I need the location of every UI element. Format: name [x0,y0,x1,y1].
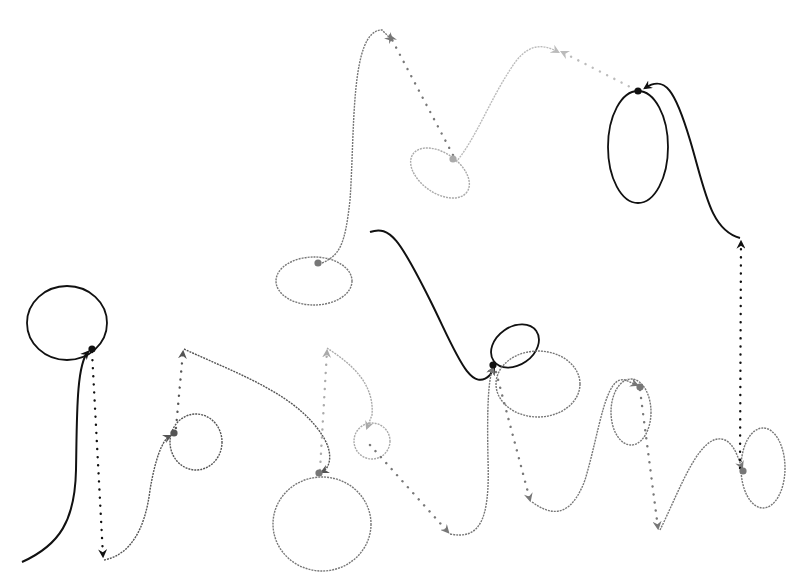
loop-ellipse [354,423,390,459]
loops-layer [27,91,785,571]
junction-node [314,259,321,266]
connector-curve [22,352,88,562]
connector-curve [327,348,372,428]
junction-node [634,87,641,94]
dotted-arrow [320,351,327,470]
junction-node [170,429,177,436]
nodes-layer [88,87,746,476]
junction-node [636,383,643,390]
dotted-arrow [390,36,453,155]
connector-curve [660,439,742,530]
diagram-canvas [0,0,803,587]
connector-curve [450,368,493,535]
dotted-arrow [640,390,658,528]
loop-ellipse [401,138,478,209]
loop-ellipse [496,351,580,417]
dotted-arrows-layer [92,36,741,556]
connector-curve [184,349,330,472]
junction-node [449,155,456,162]
junction-node [739,467,746,474]
dotted-arrow [740,242,741,468]
loop-ellipse [611,379,651,445]
dotted-arrow [562,52,636,90]
dotted-arrow [176,352,183,428]
junction-node [315,469,322,476]
junction-node [88,345,95,352]
loop-ellipse [276,257,352,305]
dotted-arrow [370,445,448,532]
loop-chain-diagram [0,0,803,587]
connector-curve [322,30,392,263]
connector-curve [104,436,170,560]
dotted-arrow [496,372,530,500]
loop-ellipse [741,428,785,508]
curves-layer [22,30,742,562]
loop-ellipse [170,414,222,470]
dotted-arrow [92,352,103,556]
connector-curve [532,380,637,512]
junction-node [489,361,496,368]
connector-curve [370,230,494,379]
loop-ellipse [273,477,371,571]
loop-ellipse [608,91,668,203]
connector-curve [456,47,558,162]
